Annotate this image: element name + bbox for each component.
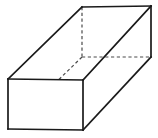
prism-drawing <box>0 0 158 138</box>
prism-face-front <box>8 79 83 130</box>
top-back-edge <box>82 6 151 7</box>
front-top-edge <box>8 79 83 80</box>
rectangular-prism-figure <box>0 0 158 138</box>
front-bottom-edge <box>8 129 83 130</box>
